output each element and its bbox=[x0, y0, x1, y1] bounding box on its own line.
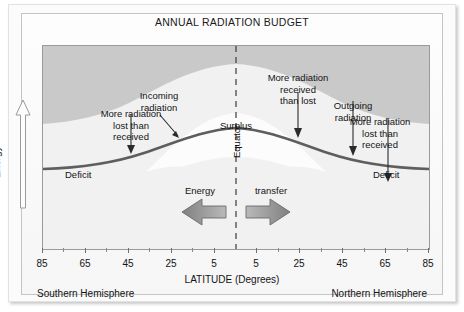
x-axis-tick-minor bbox=[407, 248, 408, 252]
surplus-annotation-line2: received bbox=[280, 84, 316, 95]
incoming-radiation-line1: Incoming bbox=[140, 90, 179, 101]
incoming-radiation-annotation: Incoming radiation bbox=[118, 90, 200, 113]
x-axis-tick-minor bbox=[63, 248, 64, 252]
y-axis-label: Energy bbox=[0, 146, 2, 178]
x-tick-label-0: 85 bbox=[36, 258, 47, 269]
deficit-label-right: Deficit bbox=[373, 169, 399, 181]
x-axis-tick bbox=[214, 248, 215, 253]
x-axis-tick-minor bbox=[321, 248, 322, 252]
x-axis-tick bbox=[128, 248, 129, 253]
left-deficit-annotation: More radiation lost than received bbox=[68, 108, 194, 143]
annual-radiation-budget-figure: ANNUAL RADIATION BUDGET Energy bbox=[0, 0, 464, 312]
x-axis-tick bbox=[299, 248, 300, 253]
outgoing-radiation-line1: Outgoing bbox=[334, 100, 373, 111]
left-deficit-line3: received bbox=[113, 131, 149, 142]
x-axis-tick-minor bbox=[149, 248, 150, 252]
x-axis-tick bbox=[342, 248, 343, 253]
x-tick-label-7: 45 bbox=[336, 258, 347, 269]
x-axis-tick bbox=[42, 248, 43, 253]
northern-hemisphere-label: Northern Hemisphere bbox=[331, 288, 427, 299]
surplus-annotation-line1: More radiation bbox=[268, 72, 329, 83]
right-deficit-line2: lost than bbox=[362, 128, 398, 139]
x-axis bbox=[42, 248, 428, 258]
chart-title: ANNUAL RADIATION BUDGET bbox=[0, 16, 464, 28]
plot-area: Equator More radiation lost than receive… bbox=[42, 45, 430, 250]
x-tick-label-2: 45 bbox=[122, 258, 133, 269]
right-deficit-annotation: More radiation lost than received bbox=[331, 116, 429, 151]
x-axis-title: LATITUDE (Degrees) bbox=[0, 274, 464, 285]
deficit-label-left: Deficit bbox=[65, 169, 91, 181]
southern-hemisphere-label: Southern Hemisphere bbox=[37, 288, 134, 299]
x-tick-label-6: 25 bbox=[293, 258, 304, 269]
x-tick-label-3: 25 bbox=[165, 258, 176, 269]
x-tick-label-9: 85 bbox=[422, 258, 433, 269]
right-deficit-line3: received bbox=[362, 139, 398, 150]
x-axis-tick bbox=[385, 248, 386, 253]
right-deficit-line1: More radiation bbox=[350, 116, 411, 127]
x-tick-label-4: 5 bbox=[211, 258, 217, 269]
surplus-region-label: Surplus bbox=[200, 120, 272, 132]
left-deficit-line2: lost than bbox=[113, 120, 149, 131]
x-tick-label-8: 65 bbox=[379, 258, 390, 269]
x-axis-tick bbox=[85, 248, 86, 253]
x-axis-tick-minor bbox=[106, 248, 107, 252]
x-axis-tick bbox=[256, 248, 257, 253]
x-axis-tick bbox=[171, 248, 172, 253]
surplus-annotation-line3: than lost bbox=[280, 95, 316, 106]
x-axis-tick-minor bbox=[192, 248, 193, 252]
x-axis-tick bbox=[428, 248, 429, 253]
energy-axis-arrow-icon bbox=[14, 98, 32, 214]
x-tick-label-1: 65 bbox=[79, 258, 90, 269]
x-axis-tick-minor bbox=[364, 248, 365, 252]
x-axis-tick-minor bbox=[278, 248, 279, 252]
incoming-radiation-line2: radiation bbox=[141, 102, 177, 113]
energy-transfer-label-right: transfer bbox=[242, 185, 300, 197]
x-tick-label-5: 5 bbox=[253, 258, 259, 269]
energy-transfer-label-left: Energy bbox=[171, 185, 229, 197]
